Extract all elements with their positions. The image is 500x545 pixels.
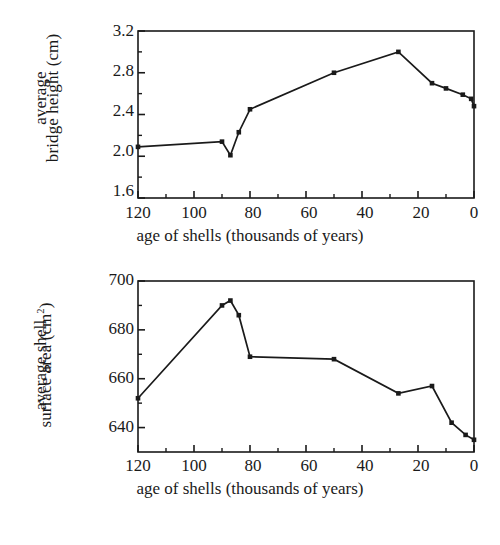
data-point-marker bbox=[396, 50, 401, 55]
plot-frame bbox=[138, 31, 474, 198]
data-point-marker bbox=[220, 303, 225, 308]
data-series-line bbox=[138, 301, 474, 440]
data-point-marker bbox=[136, 145, 141, 150]
data-point-marker bbox=[472, 104, 477, 109]
data-point-marker bbox=[228, 153, 233, 158]
data-point-marker bbox=[469, 97, 474, 102]
data-series-line bbox=[138, 52, 474, 155]
data-point-marker bbox=[444, 86, 449, 91]
plot-area-bridge-height bbox=[0, 0, 500, 250]
data-point-marker bbox=[461, 92, 466, 97]
data-point-marker bbox=[332, 70, 337, 75]
plot-area-surface-area bbox=[0, 255, 500, 505]
data-point-marker bbox=[332, 357, 337, 362]
data-point-marker bbox=[237, 130, 242, 135]
data-point-marker bbox=[430, 384, 435, 389]
figure-shell-measurements: average bridge height (cm) 3.2 2.8 2.4 2… bbox=[0, 0, 500, 545]
data-point-marker bbox=[449, 420, 454, 425]
data-point-marker bbox=[248, 354, 253, 359]
data-point-marker bbox=[136, 396, 141, 401]
data-point-marker bbox=[463, 433, 468, 438]
data-point-marker bbox=[220, 139, 225, 144]
data-point-marker bbox=[396, 391, 401, 396]
chart-panel-bridge-height: average bridge height (cm) 3.2 2.8 2.4 2… bbox=[0, 0, 500, 250]
data-point-marker bbox=[237, 313, 242, 318]
data-point-marker bbox=[248, 107, 253, 112]
data-point-marker bbox=[472, 437, 477, 442]
plot-frame bbox=[138, 281, 474, 452]
data-point-marker bbox=[228, 298, 233, 303]
data-point-marker bbox=[430, 81, 435, 86]
chart-panel-shell-surface-area: average shell surface area (cm2) 700 680… bbox=[0, 255, 500, 545]
